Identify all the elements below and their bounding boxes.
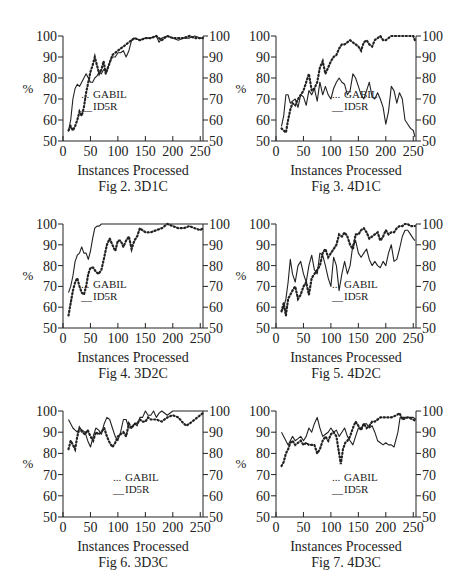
x-tick-label: 200: [162, 144, 183, 159]
y-tick-label-right: 70: [209, 279, 223, 294]
y-tick-label-left: 90: [43, 425, 57, 440]
y-tick-label-right: 70: [209, 468, 223, 483]
y-tick-label-right: 90: [422, 425, 436, 440]
x-axis-label: Instances Processed: [290, 163, 402, 178]
chart-fig2: 5060708090100506070809010005010015020025…: [23, 29, 230, 194]
legend-label-gabil: GABIL: [93, 88, 127, 100]
y-tick-label-left: 90: [256, 50, 270, 65]
y-tick-label-right: 50: [422, 321, 436, 336]
y-tick-label-right: 70: [209, 92, 223, 107]
x-axis-label: Instances Processed: [77, 539, 189, 554]
x-tick-label: 250: [403, 331, 424, 346]
x-tick-label: 250: [190, 331, 211, 346]
y-tick-label-left: 60: [256, 113, 270, 128]
y-tick-label-right: 100: [209, 404, 230, 419]
x-axis-label: Instances Processed: [77, 350, 189, 365]
x-axis-label: Instances Processed: [290, 539, 402, 554]
y-tick-label-right: 70: [422, 468, 436, 483]
y-tick-label-left: 70: [256, 468, 270, 483]
legend-marker-id5r: __: [80, 100, 93, 112]
x-tick-label: 250: [403, 144, 424, 159]
y-tick-label-left: 100: [249, 217, 270, 232]
y-tick-label-left: 80: [43, 71, 57, 86]
y-axis-label: %: [236, 456, 247, 471]
x-axis-label: Instances Processed: [77, 163, 189, 178]
x-tick-label: 250: [190, 520, 211, 535]
x-tick-label: 200: [162, 520, 183, 535]
x-tick-label: 200: [375, 520, 396, 535]
y-tick-label-right: 60: [209, 113, 223, 128]
x-axis-label: Instances Processed: [290, 350, 402, 365]
legend-label-id5r: ID5R: [344, 290, 369, 302]
y-tick-label-right: 80: [422, 259, 436, 274]
y-tick-label-left: 80: [43, 446, 57, 461]
legend-marker-gabil: ...: [113, 471, 122, 483]
y-tick-label-right: 90: [209, 425, 223, 440]
legend-marker-id5r: __: [331, 290, 344, 302]
series-id5r-solid: [69, 411, 204, 447]
legend-marker-gabil: ...: [332, 278, 341, 290]
y-tick-label-right: 90: [422, 238, 436, 253]
y-tick-label-right: 80: [209, 259, 223, 274]
chart-fig5: 5060708090100506070809010005010015020025…: [236, 217, 443, 381]
legend-label-gabil: GABIL: [344, 88, 378, 100]
y-tick-label-left: 50: [43, 510, 57, 525]
legend-label-gabil: GABIL: [344, 278, 378, 290]
x-tick-label: 150: [348, 520, 369, 535]
y-tick-label-right: 100: [422, 217, 443, 232]
y-tick-label-right: 60: [209, 300, 223, 315]
y-tick-label-left: 100: [249, 29, 270, 44]
figure-caption: Fig 2. 3D1C: [98, 179, 168, 194]
x-tick-label: 0: [60, 520, 67, 535]
y-tick-label-left: 100: [36, 29, 57, 44]
x-tick-label: 150: [135, 331, 156, 346]
legend-marker-id5r: __: [112, 483, 125, 495]
y-tick-label-right: 80: [422, 446, 436, 461]
x-tick-label: 0: [273, 520, 280, 535]
x-tick-label: 50: [296, 144, 310, 159]
legend-label-gabil: GABIL: [93, 278, 127, 290]
x-tick-label: 100: [320, 520, 341, 535]
y-tick-label-left: 90: [43, 238, 57, 253]
x-tick-label: 100: [320, 331, 341, 346]
legend-marker-gabil: ...: [81, 278, 90, 290]
y-tick-label-right: 100: [209, 217, 230, 232]
y-tick-label-right: 50: [209, 134, 223, 149]
chart-fig3: 5060708090100506070809010005010015020025…: [236, 29, 443, 194]
y-tick-label-right: 60: [422, 113, 436, 128]
y-tick-label-right: 50: [422, 510, 436, 525]
x-tick-label: 100: [107, 331, 128, 346]
figure-caption: Fig 4. 3D2C: [98, 366, 168, 381]
y-tick-label-right: 90: [209, 238, 223, 253]
y-axis-label: %: [236, 268, 247, 283]
x-tick-label: 50: [83, 144, 97, 159]
y-tick-label-left: 90: [256, 425, 270, 440]
y-tick-label-left: 60: [256, 489, 270, 504]
y-tick-label-left: 70: [43, 468, 57, 483]
legend-marker-gabil: ...: [332, 88, 341, 100]
figure-caption: Fig 6. 3D3C: [98, 555, 168, 570]
series-id5r-solid: [282, 417, 417, 447]
legend-marker-id5r: __: [331, 483, 344, 495]
legend-marker-id5r: __: [331, 100, 344, 112]
x-tick-label: 250: [403, 520, 424, 535]
x-tick-label: 100: [320, 144, 341, 159]
x-tick-label: 50: [296, 520, 310, 535]
y-tick-label-right: 100: [422, 404, 443, 419]
legend-marker-gabil: ...: [332, 471, 341, 483]
y-axis-label: %: [23, 268, 34, 283]
y-tick-label-right: 50: [209, 321, 223, 336]
x-tick-label: 150: [135, 520, 156, 535]
y-axis-label: %: [236, 81, 247, 96]
x-tick-label: 250: [190, 144, 211, 159]
x-tick-label: 100: [107, 144, 128, 159]
legend-label-id5r: ID5R: [344, 100, 369, 112]
y-axis-label: %: [23, 81, 34, 96]
y-tick-label-left: 100: [36, 217, 57, 232]
y-tick-label-right: 90: [209, 50, 223, 65]
y-tick-label-right: 60: [422, 489, 436, 504]
series-gabil-dotted: [282, 36, 415, 133]
legend-label-gabil: GABIL: [125, 471, 159, 483]
y-tick-label-left: 70: [256, 92, 270, 107]
chart-fig4: 5060708090100506070809010005010015020025…: [23, 217, 230, 381]
